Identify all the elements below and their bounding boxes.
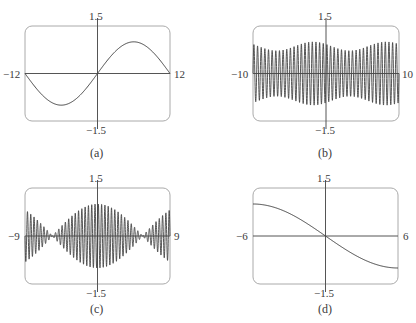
- caption-d: (d): [318, 302, 332, 317]
- ymin-label-d: −1.5: [314, 287, 334, 299]
- ymax-label-d: 1.5: [317, 172, 331, 184]
- plot-d: [0, 0, 416, 323]
- xmax-label-d: 6: [403, 230, 409, 242]
- panel-d: 1.5 −1.5 −6 6 (d): [0, 0, 416, 323]
- xmin-label-d: −6: [236, 230, 248, 242]
